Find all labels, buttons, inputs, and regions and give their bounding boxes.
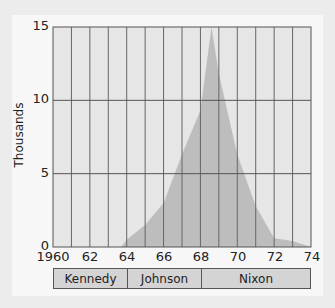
y-axis-label: Thousands (12, 100, 26, 170)
president-bar-nixon: Nixon (201, 268, 311, 289)
x-tick-66: 66 (144, 249, 184, 264)
y-tick-10: 10 (19, 91, 49, 106)
x-tick-1960: 1960 (33, 249, 73, 264)
y-tick-5: 5 (19, 165, 49, 180)
x-tick-70: 70 (218, 249, 258, 264)
president-bar-johnson: Johnson (127, 268, 202, 289)
x-tick-62: 62 (70, 249, 110, 264)
x-tick-64: 64 (107, 249, 147, 264)
x-tick-68: 68 (181, 249, 221, 264)
y-tick-15: 15 (19, 18, 49, 33)
x-tick-72: 72 (255, 249, 295, 264)
x-tick-74: 74 (292, 249, 332, 264)
president-bar-kennedy: Kennedy (53, 268, 128, 289)
